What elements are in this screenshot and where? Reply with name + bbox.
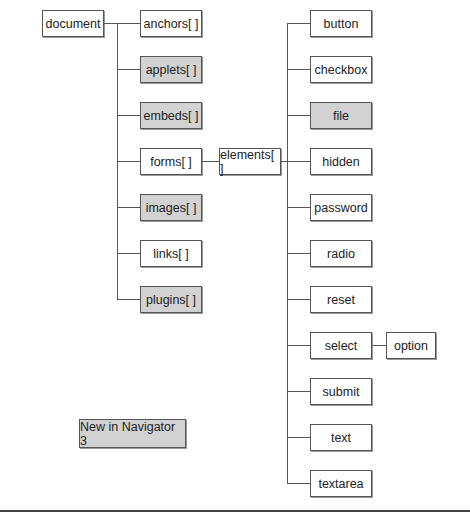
- connector: [117, 253, 140, 254]
- connector: [287, 23, 310, 24]
- connector: [287, 115, 310, 116]
- node-radio: radio: [310, 240, 372, 267]
- node-hidden: hidden: [310, 148, 372, 175]
- node-applets: applets[ ]: [140, 56, 202, 83]
- node-elements: elements[ ]: [219, 148, 281, 175]
- bottom-rule: [0, 510, 470, 512]
- connector: [117, 115, 140, 116]
- connector: [287, 299, 310, 300]
- node-select: select: [310, 332, 372, 359]
- connector: [287, 161, 310, 162]
- node-file: file: [310, 102, 372, 129]
- connector: [117, 69, 140, 70]
- connector: [117, 207, 140, 208]
- connector: [287, 483, 310, 484]
- connector: [287, 253, 310, 254]
- node-embeds: embeds[ ]: [140, 102, 202, 129]
- connector: [287, 207, 310, 208]
- connector: [104, 23, 140, 24]
- node-checkbox: checkbox: [310, 56, 372, 83]
- connector: [287, 437, 310, 438]
- connector: [287, 69, 310, 70]
- node-document: document: [42, 10, 104, 37]
- connector: [117, 299, 140, 300]
- connector: [287, 345, 310, 346]
- connector: [117, 161, 140, 162]
- node-anchors: anchors[ ]: [140, 10, 202, 37]
- node-option: option: [386, 332, 436, 359]
- connector: [372, 345, 386, 346]
- node-password: password: [310, 194, 372, 221]
- legend-new-in-navigator-3: New in Navigator 3: [79, 419, 186, 448]
- connector: [202, 161, 219, 162]
- node-submit: submit: [310, 378, 372, 405]
- node-text: text: [310, 424, 372, 451]
- node-images: images[ ]: [140, 194, 202, 221]
- node-textarea: textarea: [310, 470, 372, 497]
- node-reset: reset: [310, 286, 372, 313]
- node-links: links[ ]: [140, 240, 202, 267]
- node-plugins: plugins[ ]: [140, 286, 202, 313]
- node-button: button: [310, 10, 372, 37]
- connector: [287, 391, 310, 392]
- node-forms: forms[ ]: [140, 148, 202, 175]
